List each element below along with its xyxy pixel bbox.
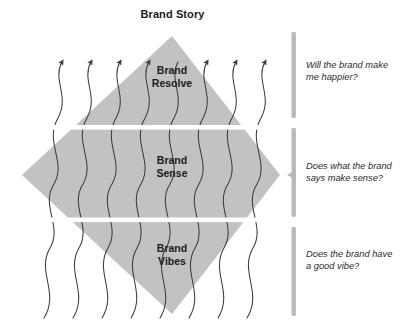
band-label-vibes: Brand Vibes — [129, 242, 215, 267]
band-label-sense: Brand Sense — [129, 154, 215, 179]
question-text-vibes: Does the brand have a good vibe? — [306, 248, 406, 272]
page-title: Brand Story — [0, 8, 345, 20]
question-text-sense: Does what the brand says make sense? — [306, 160, 406, 184]
question-text-resolve: Will the brand make me happier? — [306, 59, 406, 83]
question-rules — [287, 32, 296, 316]
question-rule-vibes — [292, 227, 296, 316]
question-rule-resolve — [292, 32, 296, 118]
band-label-resolve: Brand Resolve — [129, 64, 215, 89]
